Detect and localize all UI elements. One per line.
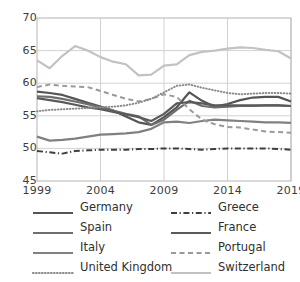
- legend-label: Spain: [80, 222, 112, 234]
- legend-item-italy[interactable]: Italy: [32, 238, 170, 258]
- legend-swatch-greece: [170, 203, 212, 213]
- legend-swatch-united-kingdom: [32, 263, 74, 273]
- y-axis-tick-label: 60: [23, 76, 37, 89]
- y-axis-tick-label: 70: [23, 11, 37, 24]
- y-axis-tick-label: 55: [23, 109, 37, 122]
- x-axis-tick-label: 2014: [208, 184, 248, 197]
- x-axis-tick-label: 2019: [271, 184, 300, 197]
- legend-item-greece[interactable]: Greece: [170, 198, 300, 218]
- legend-item-france[interactable]: France: [170, 218, 300, 238]
- legend-item-switzerland[interactable]: Switzerland: [170, 258, 300, 278]
- legend-label: Greece: [218, 202, 259, 214]
- legend-label: Portugal: [218, 242, 266, 254]
- x-axis-tick-label: 1999: [17, 184, 57, 197]
- legend-swatch-spain: [32, 223, 74, 233]
- line-chart: 706560555045 19992004200920142019 German…: [0, 0, 300, 282]
- legend-swatch-switzerland: [170, 263, 212, 273]
- plot-area: [0, 0, 300, 196]
- legend-label: France: [218, 222, 256, 234]
- legend-item-spain[interactable]: Spain: [32, 218, 170, 238]
- legend-swatch-italy: [32, 243, 74, 253]
- chart-legend: GermanyGreeceSpainFranceItalyPortugalUni…: [0, 198, 300, 282]
- x-axis-tick-label: 2004: [81, 184, 121, 197]
- y-axis-tick-label: 50: [23, 141, 37, 154]
- legend-swatch-portugal: [170, 243, 212, 253]
- chart-canvas: [0, 0, 300, 196]
- legend-label: Switzerland: [218, 262, 285, 274]
- legend-swatch-germany: [32, 203, 74, 213]
- legend-swatch-france: [170, 223, 212, 233]
- legend-item-germany[interactable]: Germany: [32, 198, 170, 218]
- legend-label: Italy: [80, 242, 105, 254]
- legend-label: United Kingdom: [80, 262, 172, 274]
- legend-item-united-kingdom[interactable]: United Kingdom: [32, 258, 170, 278]
- legend-label: Germany: [80, 202, 133, 214]
- x-axis-tick-label: 2009: [144, 184, 184, 197]
- legend-item-portugal[interactable]: Portugal: [170, 238, 300, 258]
- y-axis-tick-label: 65: [23, 44, 37, 57]
